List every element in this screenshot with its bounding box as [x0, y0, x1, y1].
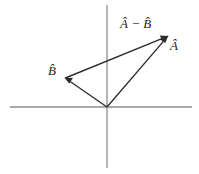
label-vector-b: B̂	[48, 64, 56, 77]
vector-a-minus-b-shaft	[65, 37, 165, 78]
vector-diagram-canvas	[0, 0, 199, 174]
vector-b	[64, 78, 107, 108]
vector-diagram-figure: Â − B̂ Â B̂	[0, 0, 199, 174]
vector-a	[107, 35, 169, 107]
label-vector-a: Â	[170, 39, 178, 52]
label-a-minus-b: Â − B̂	[120, 17, 151, 30]
vector-b-shaft	[68, 80, 107, 107]
vector-a-minus-b	[65, 36, 168, 78]
